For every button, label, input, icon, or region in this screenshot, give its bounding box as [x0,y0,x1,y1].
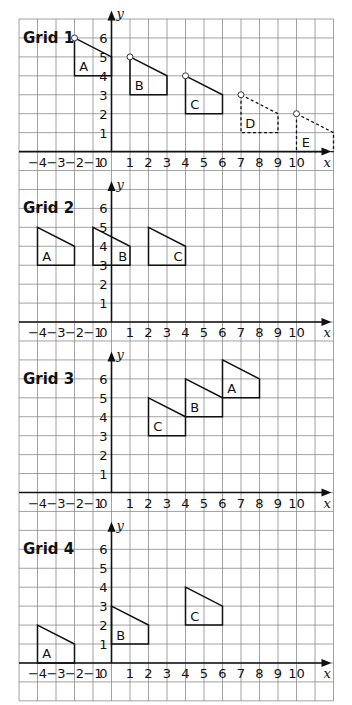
x-tick-label: 10 [288,155,305,170]
x-tick-label: 7 [237,155,245,170]
x-tick-label: −4 [28,496,47,511]
x-tick-label: 9 [274,155,282,170]
x-tick-label: 6 [218,496,226,511]
x-tick-label: 5 [200,325,208,340]
shape-label: B [118,249,127,264]
x-tick-label: 8 [255,666,263,681]
x-tick-label: −3 [46,325,65,340]
y-axis-arrow-icon [108,181,116,191]
y-axis-label: y [116,347,125,362]
x-tick-label: 8 [255,155,263,170]
x-tick-label: 4 [181,325,189,340]
y-tick-label: 4 [99,410,107,425]
y-tick-label: 6 [99,201,107,216]
y-tick-label: 5 [99,561,107,576]
x-tick-label: 4 [181,496,189,511]
x-tick-label: 3 [163,155,171,170]
shape-label: B [116,628,125,643]
x-tick-label: 1 [126,496,134,511]
vertex-marker-icon [183,73,189,79]
x-tick-label: 10 [288,325,305,340]
y-tick-label: 4 [99,580,107,595]
shape-label: A [42,646,51,661]
shape-e: E [294,111,334,152]
x-tick-label: 6 [218,155,226,170]
shape-label: A [227,381,236,396]
x-tick-label: −3 [46,666,65,681]
vertex-marker-icon [294,111,300,117]
x-tick-label: 2 [144,155,152,170]
y-tick-label: 3 [99,599,107,614]
shape-label: C [190,609,199,624]
x-tick-label: 9 [274,325,282,340]
x-tick-label: 10 [288,496,305,511]
x-tick-label: 9 [274,666,282,681]
y-tick-label: 1 [99,637,107,652]
y-tick-label: 3 [99,88,107,103]
y-axis-label: y [116,6,125,21]
x-tick-label: 1 [126,155,134,170]
y-tick-label: 6 [99,542,107,557]
y-tick-label: 2 [99,277,107,292]
x-tick-label: 2 [144,325,152,340]
y-tick-label: 1 [99,296,107,311]
x-axis-label: x [324,325,332,340]
grid-panels: Grid 1xy−4−3−2−1012345678910123456ABCDEG… [19,6,334,680]
shape-label: A [42,249,51,264]
shape-label: C [190,97,199,112]
x-axis-label: x [324,496,332,511]
shape-label: E [302,135,310,150]
grid-panel-4: Grid 4xy−4−3−2−1012345678910123456ABC [19,518,332,681]
coordinate-grids-worksheet: Grid 1xy−4−3−2−1012345678910123456ABCDEG… [0,0,352,705]
y-axis-label: y [116,518,125,533]
x-tick-label: 7 [237,666,245,681]
grid-title: Grid 3 [23,370,74,388]
y-tick-label: 6 [99,31,107,46]
vertex-marker-icon [127,54,133,60]
shape-label: B [190,400,199,415]
x-tick-label: 5 [200,496,208,511]
grid-canvas: Grid 1xy−4−3−2−1012345678910123456ABCDEG… [0,0,352,705]
x-tick-label: −2 [65,666,84,681]
shape-label: C [174,249,183,264]
y-tick-label: 6 [99,372,107,387]
x-tick-label: 3 [163,666,171,681]
shape-c: C [183,73,223,114]
x-tick-label: 10 [288,666,305,681]
vertex-marker-icon [238,92,244,98]
x-tick-label: 6 [218,666,226,681]
x-tick-label: −2 [65,155,84,170]
y-tick-label: 3 [99,429,107,444]
x-tick-label: 6 [218,325,226,340]
x-tick-label: −3 [46,496,65,511]
shape-label: D [245,116,255,131]
x-tick-label: −4 [28,666,47,681]
x-tick-label: 7 [237,496,245,511]
shape-label: C [153,419,162,434]
y-tick-label: 5 [99,391,107,406]
x-tick-label: 7 [237,325,245,340]
x-tick-label: 1 [126,666,134,681]
x-tick-label: 8 [255,325,263,340]
grid-panel-1: Grid 1xy−4−3−2−1012345678910123456ABCDE [19,6,334,169]
y-tick-label: 2 [99,448,107,463]
grid-title: Grid 1 [23,29,74,47]
grid-title: Grid 4 [23,540,74,558]
x-tick-label: 2 [144,496,152,511]
y-tick-label: 1 [99,467,107,482]
x-tick-label: 3 [163,325,171,340]
x-tick-label: 1 [126,325,134,340]
grid-panel-2: Grid 2xy−4−3−2−1012345678910123456ABC [19,177,332,340]
x-tick-label: 2 [144,666,152,681]
x-tick-label: 3 [163,496,171,511]
x-tick-label: 4 [181,666,189,681]
grid-panel-3: Grid 3xy−4−3−2−1012345678910123456ABC [19,347,332,510]
x-tick-label: 0 [99,666,107,681]
y-tick-label: 4 [99,239,107,254]
x-tick-label: 5 [200,666,208,681]
x-tick-label: −4 [28,325,47,340]
x-tick-label: 0 [99,496,107,511]
y-axis-arrow-icon [108,351,116,361]
x-tick-label: −3 [46,155,65,170]
y-axis-arrow-icon [108,522,116,532]
